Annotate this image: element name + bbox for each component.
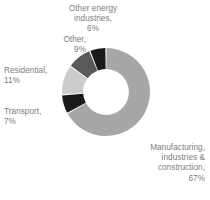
slice-label-other: Other, 9% bbox=[24, 35, 86, 55]
slice-label-manufacturing-industries-construction: Manufacturing, industries & construction… bbox=[113, 143, 205, 184]
slice-label-other-energy-industries: Other energy industries, 6% bbox=[54, 4, 132, 35]
donut-chart-figure: Other energy industries, 6% Other, 9% Re… bbox=[0, 0, 210, 200]
donut-slice-group bbox=[62, 48, 150, 136]
slice-label-residential: Residential, 11% bbox=[4, 66, 72, 86]
slice-label-transport: Transport, 7% bbox=[4, 107, 72, 127]
